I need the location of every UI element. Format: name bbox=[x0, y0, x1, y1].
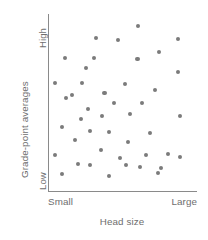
y-axis-tick-low: Low bbox=[38, 172, 48, 190]
data-point bbox=[176, 70, 180, 74]
data-point bbox=[88, 163, 92, 167]
data-point bbox=[102, 91, 106, 95]
data-point bbox=[135, 57, 139, 61]
data-point bbox=[118, 156, 122, 160]
data-point bbox=[60, 125, 64, 129]
data-point bbox=[148, 131, 152, 135]
data-point bbox=[144, 153, 148, 157]
x-axis-title: Head size bbox=[100, 216, 144, 227]
data-point bbox=[157, 50, 161, 54]
data-point bbox=[178, 155, 182, 159]
data-point bbox=[86, 107, 90, 111]
data-point bbox=[107, 174, 111, 178]
data-point bbox=[80, 81, 84, 85]
data-point bbox=[176, 37, 180, 41]
data-point bbox=[60, 172, 64, 176]
data-point bbox=[112, 101, 116, 105]
data-point bbox=[92, 56, 96, 60]
data-point bbox=[126, 140, 130, 144]
data-point bbox=[136, 24, 140, 28]
data-point bbox=[100, 114, 104, 118]
data-point bbox=[53, 153, 57, 157]
data-point bbox=[79, 117, 83, 121]
plot-area bbox=[48, 14, 197, 192]
data-point bbox=[63, 56, 67, 60]
data-point bbox=[140, 101, 144, 105]
data-point bbox=[70, 93, 74, 97]
data-point bbox=[94, 36, 98, 40]
data-point bbox=[99, 148, 103, 152]
data-point bbox=[64, 96, 68, 100]
data-point bbox=[156, 171, 160, 175]
data-point bbox=[178, 114, 182, 118]
y-axis-tick-high: High bbox=[38, 28, 48, 48]
data-point bbox=[123, 82, 127, 86]
x-axis-tick-small: Small bbox=[48, 196, 73, 207]
data-point bbox=[128, 112, 132, 116]
data-point bbox=[84, 66, 88, 70]
x-axis-tick-large: Large bbox=[171, 196, 197, 207]
scatter-plot-figure: High Low Grade-point averages Small Larg… bbox=[0, 0, 208, 240]
data-point bbox=[138, 165, 142, 169]
data-point bbox=[153, 88, 157, 92]
data-point bbox=[124, 163, 128, 167]
y-axis-title: Grade-point averages bbox=[19, 81, 30, 178]
data-point bbox=[159, 166, 163, 170]
data-point bbox=[76, 162, 80, 166]
data-point bbox=[73, 138, 77, 142]
data-point bbox=[88, 129, 92, 133]
data-point bbox=[116, 38, 120, 42]
data-point bbox=[107, 130, 111, 134]
data-point bbox=[53, 81, 57, 85]
data-point bbox=[166, 152, 170, 156]
